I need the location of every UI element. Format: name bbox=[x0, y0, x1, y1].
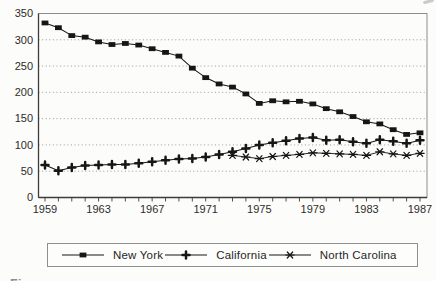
y-tick-label: 300 bbox=[15, 34, 33, 46]
square-marker bbox=[202, 75, 209, 80]
plus-marker bbox=[269, 139, 276, 146]
scanned-chart-page: 1959196319671971197519791983198705010015… bbox=[0, 0, 436, 281]
square-marker bbox=[390, 127, 397, 132]
legend-item-california: California bbox=[163, 249, 267, 261]
x-tick-label: 1987 bbox=[408, 203, 432, 215]
plus-marker bbox=[309, 134, 316, 141]
plus-marker bbox=[336, 136, 343, 143]
x-tick-label: 1963 bbox=[86, 203, 110, 215]
asterisk-marker bbox=[389, 151, 397, 157]
square-marker bbox=[269, 98, 276, 103]
square-marker bbox=[109, 42, 116, 47]
plus-marker bbox=[229, 148, 236, 155]
square-marker bbox=[216, 82, 223, 87]
asterisk-marker bbox=[242, 154, 250, 160]
square-marker bbox=[95, 39, 102, 44]
plus-marker bbox=[216, 151, 223, 158]
asterisk-marker bbox=[295, 151, 303, 157]
square-marker bbox=[80, 253, 87, 258]
square-marker bbox=[55, 25, 62, 30]
plus-marker bbox=[417, 137, 424, 144]
square-marker bbox=[350, 114, 357, 119]
asterisk-marker bbox=[282, 152, 290, 158]
plus-marker bbox=[296, 135, 303, 142]
plus-marker bbox=[242, 145, 249, 152]
plus-marker bbox=[82, 162, 89, 169]
caption-fragment: Figure bbox=[10, 277, 430, 281]
square-marker bbox=[296, 99, 303, 104]
plus-marker bbox=[108, 161, 115, 168]
plus-marker bbox=[135, 160, 142, 167]
legend-box: New York California North Carolina bbox=[47, 243, 418, 267]
plus-marker bbox=[403, 140, 410, 147]
asterisk-marker bbox=[402, 152, 410, 158]
x-tick-label: 1979 bbox=[301, 203, 325, 215]
y-tick-label: 0 bbox=[27, 191, 33, 203]
plus-marker bbox=[323, 137, 330, 144]
y-tick-label: 350 bbox=[15, 7, 33, 19]
x-tick-label: 1975 bbox=[247, 203, 271, 215]
asterisk-marker bbox=[255, 156, 263, 162]
square-marker bbox=[162, 50, 169, 55]
plus-marker bbox=[68, 164, 75, 171]
plus-marker bbox=[55, 167, 62, 174]
square-marker bbox=[176, 54, 183, 59]
square-marker bbox=[363, 119, 370, 124]
california-plus-marker-icon bbox=[163, 249, 209, 261]
legend-item-north-carolina: North Carolina bbox=[267, 249, 397, 261]
square-marker bbox=[403, 132, 410, 137]
square-marker bbox=[149, 46, 156, 51]
asterisk-marker bbox=[309, 150, 317, 156]
asterisk-marker bbox=[376, 149, 384, 155]
x-tick-label: 1959 bbox=[33, 203, 57, 215]
series-north-carolina bbox=[228, 149, 424, 162]
new-york-square-marker-icon bbox=[60, 249, 106, 261]
x-tick-label: 1967 bbox=[140, 203, 164, 215]
y-tick-label: 50 bbox=[21, 165, 33, 177]
legend-label-north-carolina: North Carolina bbox=[320, 249, 397, 261]
square-marker bbox=[283, 99, 290, 104]
plus-marker bbox=[283, 137, 290, 144]
plus-marker bbox=[149, 158, 156, 165]
series-new-york bbox=[42, 21, 424, 137]
square-marker bbox=[42, 21, 49, 26]
square-marker bbox=[189, 66, 196, 71]
legend-label-new-york: New York bbox=[113, 249, 163, 261]
square-marker bbox=[242, 92, 249, 97]
chart-canvas: 1959196319671971197519791983198705010015… bbox=[0, 0, 436, 281]
asterisk-marker bbox=[362, 152, 370, 158]
y-tick-label: 150 bbox=[15, 112, 33, 124]
plus-marker bbox=[390, 138, 397, 145]
square-marker bbox=[256, 101, 263, 106]
plus-marker bbox=[122, 161, 129, 168]
plus-marker bbox=[189, 155, 196, 162]
plus-marker bbox=[183, 252, 190, 259]
y-tick-label: 200 bbox=[15, 86, 33, 98]
y-tick-label: 100 bbox=[15, 139, 33, 151]
plus-marker bbox=[256, 141, 263, 148]
y-tick-label: 250 bbox=[15, 60, 33, 72]
square-marker bbox=[336, 109, 343, 114]
asterisk-marker bbox=[286, 252, 294, 258]
north-carolina-asterisk-marker-icon bbox=[267, 249, 313, 261]
square-marker bbox=[68, 33, 75, 38]
asterisk-marker bbox=[349, 151, 357, 157]
y-axis-labels: 050100150200250300350 bbox=[15, 7, 33, 203]
x-axis-labels: 19591963196719711975197919831987 bbox=[33, 203, 432, 215]
plus-marker bbox=[175, 156, 182, 163]
plus-marker bbox=[202, 154, 209, 161]
plus-marker bbox=[363, 140, 370, 147]
x-tick-label: 1971 bbox=[193, 203, 217, 215]
square-marker bbox=[376, 122, 383, 127]
square-marker bbox=[122, 41, 129, 46]
asterisk-marker bbox=[335, 151, 343, 157]
square-marker bbox=[323, 106, 330, 111]
plus-marker bbox=[42, 161, 49, 168]
plus-marker bbox=[350, 138, 357, 145]
square-marker bbox=[135, 43, 142, 48]
asterisk-marker bbox=[416, 150, 424, 156]
plus-marker bbox=[95, 161, 102, 168]
square-marker bbox=[309, 102, 316, 107]
square-marker bbox=[229, 85, 236, 90]
square-marker bbox=[82, 35, 89, 40]
